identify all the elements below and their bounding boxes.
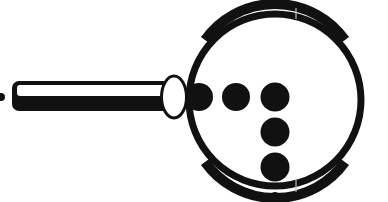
magnifying-glass-icon: [0, 0, 388, 202]
braille-dot-small: [270, 192, 280, 202]
magnifier-braille-figure: [0, 0, 388, 202]
handle-end-dot: [0, 93, 5, 101]
magnifier-collar: [162, 76, 187, 118]
braille-dot: [261, 83, 290, 112]
magnifier-handle: [12, 81, 170, 111]
braille-dot: [261, 118, 290, 147]
braille-dot: [185, 83, 213, 111]
braille-dot: [222, 83, 250, 111]
braille-dot: [261, 153, 290, 182]
